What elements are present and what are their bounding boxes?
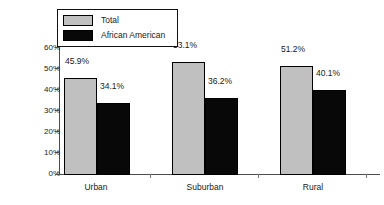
legend-item-african-american: African American [63,29,172,42]
x-axis-category-suburban: Suburban [165,182,245,192]
y-tick-0: 0% [0,170,60,178]
x-tick-mark-2 [258,174,259,178]
y-tick-mark-50 [55,68,60,69]
y-tick-mark-10 [55,152,60,153]
legend-label-total: Total [101,15,119,26]
y-tick-label-30: 30% [26,107,60,115]
x-tick-mark-3 [366,174,367,178]
legend-label-african-american: African American [101,30,165,41]
y-tick-60: 60% [0,44,60,52]
y-tick-label-20: 20% [26,128,60,136]
y-tick-label-10: 10% [26,149,60,157]
bar-chart: 60% 50% 40% 30% 20% 10% 0% 45.9% 34.1% U… [0,0,384,205]
y-tick-mark-0 [55,174,60,175]
legend-item-total: Total [63,14,172,27]
bar-suburban-african-american [205,98,238,175]
x-axis-category-urban: Urban [56,182,136,192]
bar-urban-total [64,78,97,175]
y-tick-50: 50% [0,65,60,73]
chart-legend: Total African American [57,9,178,47]
y-tick-20: 20% [0,128,60,136]
bar-suburban-total [172,62,205,175]
x-tick-mark-1 [150,174,151,178]
legend-swatch-african-american-icon [63,30,93,41]
y-tick-mark-20 [55,131,60,132]
y-tick-10: 10% [0,149,60,157]
bar-label-rural-total: 51.2% [281,45,305,54]
y-tick-label-60: 60% [26,44,60,52]
y-tick-label-50: 50% [26,65,60,73]
bar-label-suburban-african-american: 36.2% [208,77,232,86]
y-tick-40: 40% [0,86,60,94]
x-axis-category-rural: Rural [273,182,353,192]
bar-label-urban-total: 45.9% [65,57,89,66]
y-tick-label-40: 40% [26,86,60,94]
bar-label-rural-african-american: 40.1% [316,69,340,78]
bar-rural-african-american [313,90,346,175]
y-tick-30: 30% [0,107,60,115]
bar-urban-african-american [97,103,130,175]
y-tick-mark-30 [55,110,60,111]
legend-swatch-total-icon [63,15,93,26]
bar-label-urban-african-american: 34.1% [100,82,124,91]
y-tick-mark-60 [55,47,60,48]
y-tick-mark-40 [55,89,60,90]
bar-rural-total [280,66,313,175]
